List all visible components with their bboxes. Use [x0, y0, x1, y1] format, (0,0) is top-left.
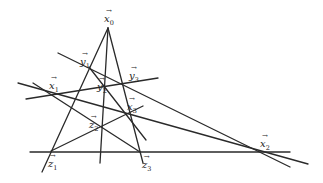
label-y2: →y2	[97, 77, 107, 95]
label-x3: →x3	[127, 97, 137, 115]
label-y1: →y1	[80, 52, 90, 70]
label-z3: →z3	[142, 155, 151, 173]
label-x2: →x2	[260, 134, 270, 152]
line-x0-z2	[100, 28, 108, 163]
label-x0: →x0	[104, 9, 114, 27]
label-y3: →y3	[129, 66, 139, 84]
label-z1: →z1	[48, 154, 57, 172]
label-z2: →z2	[89, 115, 98, 133]
label-x1: →x1	[49, 76, 59, 94]
